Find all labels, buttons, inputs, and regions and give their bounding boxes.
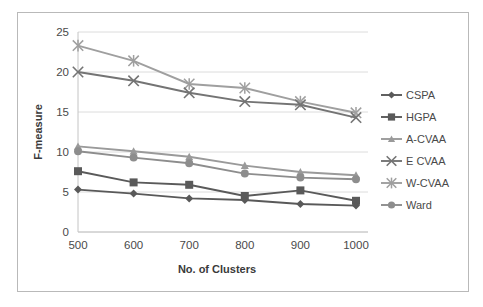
chart-legend: CSPAHGPAA-CVAAE CVAAW-CVAAWard (381, 89, 450, 211)
x-tick-label: 500 (68, 239, 87, 251)
series-a-cvaa (74, 142, 360, 178)
legend-label: A-CVAA (406, 133, 447, 145)
y-gridlines (78, 32, 368, 232)
x-tick-label: 900 (291, 239, 310, 251)
y-tick-labels: 0510152025 (56, 26, 69, 238)
marker-circle (352, 175, 360, 183)
x-tick-label: 700 (180, 239, 199, 251)
y-tick-label: 0 (63, 226, 69, 238)
legend-item-e-cvaa[interactable]: E CVAA (381, 155, 446, 167)
series-ward (74, 147, 360, 183)
legend-label: HGPA (406, 111, 437, 123)
marker-circle (296, 174, 304, 182)
x-tick-labels: 5006007008009001000 (68, 239, 368, 251)
legend-label: E CVAA (406, 155, 446, 167)
legend-item-cspa[interactable]: CSPA (381, 89, 436, 101)
marker-square (130, 178, 138, 186)
legend-label: CSPA (406, 89, 436, 101)
marker-circle (388, 201, 395, 208)
legend-item-a-cvaa[interactable]: A-CVAA (381, 133, 447, 145)
marker-circle (130, 154, 138, 162)
y-tick-label: 25 (56, 26, 69, 38)
marker-square (185, 181, 193, 189)
legend-item-ward[interactable]: Ward (381, 199, 432, 211)
x-tick-label: 800 (235, 239, 254, 251)
line-chart: 05101520255006007008009001000No. of Clus… (0, 0, 483, 307)
series-w-cvaa (73, 40, 361, 119)
series-line (78, 151, 356, 179)
marker-square (74, 167, 82, 175)
x-tick-label: 1000 (343, 239, 369, 251)
marker-diamond (296, 200, 304, 208)
marker-diamond (185, 194, 193, 202)
marker-diamond (388, 91, 395, 98)
marker-circle (185, 159, 193, 167)
series-cspa (74, 186, 360, 210)
marker-square (296, 186, 304, 194)
marker-circle (74, 147, 82, 155)
legend-label: W-CVAA (406, 177, 450, 189)
legend-item-hgpa[interactable]: HGPA (381, 111, 437, 123)
x-axis-title: No. of Clusters (178, 263, 256, 275)
series-line (78, 171, 356, 201)
legend-item-w-cvaa[interactable]: W-CVAA (381, 177, 450, 189)
marker-diamond (130, 190, 138, 198)
x-tick-label: 600 (124, 239, 143, 251)
series-e-cvaa (73, 67, 361, 123)
series-line (78, 72, 356, 118)
y-tick-label: 15 (56, 106, 69, 118)
marker-circle (241, 170, 249, 178)
legend-label: Ward (406, 199, 432, 211)
y-tick-label: 20 (56, 66, 69, 78)
chart-figure: 05101520255006007008009001000No. of Clus… (0, 0, 483, 307)
series-line (78, 146, 356, 175)
y-tick-label: 5 (63, 186, 69, 198)
y-axis-title: F-measure (32, 104, 44, 160)
y-tick-label: 10 (56, 146, 69, 158)
marker-square (388, 113, 395, 120)
